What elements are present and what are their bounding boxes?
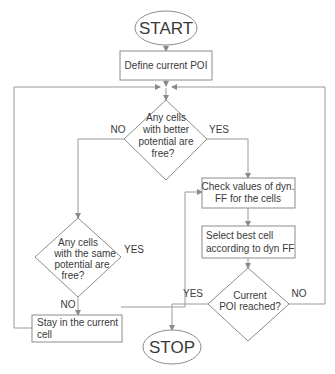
decision-reached-line-1: Current xyxy=(233,290,267,301)
edge-stay-loop xyxy=(14,87,32,328)
define-poi-label: Define current POI xyxy=(125,60,208,71)
edge-better-no xyxy=(78,139,124,218)
decision-same-line-4: free? xyxy=(62,270,85,281)
edge-better-yes xyxy=(207,139,248,178)
edge-label-reached-no: NO xyxy=(292,288,307,299)
edge-label-same-no: NO xyxy=(61,299,76,310)
select-best-node: Select best cell according to dyn FF xyxy=(202,226,295,258)
flowchart: START Define current POI Any cells with … xyxy=(0,0,335,374)
edge-label-same-yes: YES xyxy=(124,244,144,255)
stay-line-1: Stay in the current xyxy=(37,317,118,328)
stay-node: Stay in the current cell xyxy=(32,315,122,342)
check-ff-node: Check values of dyn. FF for the cells xyxy=(202,178,295,208)
decision-same-node: Any cells with the same potential are fr… xyxy=(35,218,121,297)
decision-better-line-4: free? xyxy=(152,148,175,159)
decision-better-line-1: Any cells xyxy=(146,112,186,123)
start-label: START xyxy=(139,19,193,38)
stop-node: STOP xyxy=(143,330,201,364)
decision-same-line-3: potential are xyxy=(54,259,109,270)
edge-label-reached-yes: YES xyxy=(183,288,203,299)
edge-label-better-no: NO xyxy=(111,124,126,135)
define-poi-node: Define current POI xyxy=(120,51,212,80)
decision-better-node: Any cells with better potential are free… xyxy=(124,100,207,180)
check-ff-line-1: Check values of dyn. xyxy=(202,181,295,192)
decision-reached-node: Current POI reached? xyxy=(208,268,289,341)
check-ff-line-2: FF for the cells xyxy=(215,193,281,204)
select-best-line-1: Select best cell xyxy=(206,230,273,241)
edge-reached-yes xyxy=(172,304,208,330)
stay-line-2: cell xyxy=(37,329,52,340)
decision-reached-line-2: POI reached? xyxy=(219,301,281,312)
decision-same-line-1: Any cells xyxy=(58,237,98,248)
select-best-line-2: according to dyn FF xyxy=(206,243,294,254)
decision-better-line-3: potential are xyxy=(138,136,193,147)
edge-label-better-yes: YES xyxy=(209,124,229,135)
stop-label: STOP xyxy=(149,338,195,357)
decision-same-line-2: with the same xyxy=(53,248,116,259)
start-node: START xyxy=(135,11,197,45)
decision-better-line-2: with better xyxy=(142,124,190,135)
